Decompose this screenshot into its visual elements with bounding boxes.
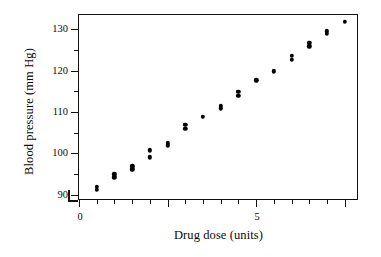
data-point [272,69,276,73]
x-tick-minor [238,199,239,204]
y-tick-label: 100 [26,147,68,158]
x-tick-label: 5 [237,211,277,222]
x-tick-minor [114,199,115,204]
x-tick-minor [132,199,133,204]
y-tick-label: 130 [26,23,68,34]
x-tick-major: 0 [79,199,80,207]
data-point [289,57,293,61]
x-tick-minor [221,199,222,204]
x-tick-major: 5 [168,199,169,207]
y-tick-label: 120 [26,64,68,75]
y-tick-label: 90 [26,188,68,199]
data-point [254,78,258,82]
y-tick-label: 110 [26,106,68,117]
x-tick-minor [292,199,293,204]
data-point [148,155,152,159]
data-point [289,53,293,57]
data-point [236,93,240,97]
y-tick-minor [74,91,79,92]
x-tick-minor [185,199,186,204]
x-tick-minor [97,199,98,204]
data-point [148,148,152,152]
y-tick-minor [74,50,79,51]
y-tick-major [71,153,79,154]
y-tick-major [71,112,79,113]
y-tick-major [71,195,79,196]
x-tick-minor [274,199,275,204]
x-tick-minor [203,199,204,204]
y-tick-major [71,29,79,30]
x-axis-extension [68,200,78,202]
data-point [343,20,347,24]
data-point [201,114,205,118]
y-tick-minor [74,133,79,134]
x-tick-minor [150,199,151,204]
y-tick-major [71,71,79,72]
x-axis-title: Drug dose (units) [78,228,359,243]
scatter-plot-figure: Blood pressure (mm Hg) 051015 9010011012… [0,0,381,257]
x-tick-minor [309,199,310,204]
x-tick-major: 15 [345,199,346,207]
data-point [183,126,187,130]
x-tick-label: 0 [60,211,100,222]
plot-area: 051015 [78,14,358,200]
x-tick-major: 10 [256,199,257,207]
y-tick-minor [74,174,79,175]
y-axis-extension [68,190,70,200]
x-tick-minor [327,199,328,204]
